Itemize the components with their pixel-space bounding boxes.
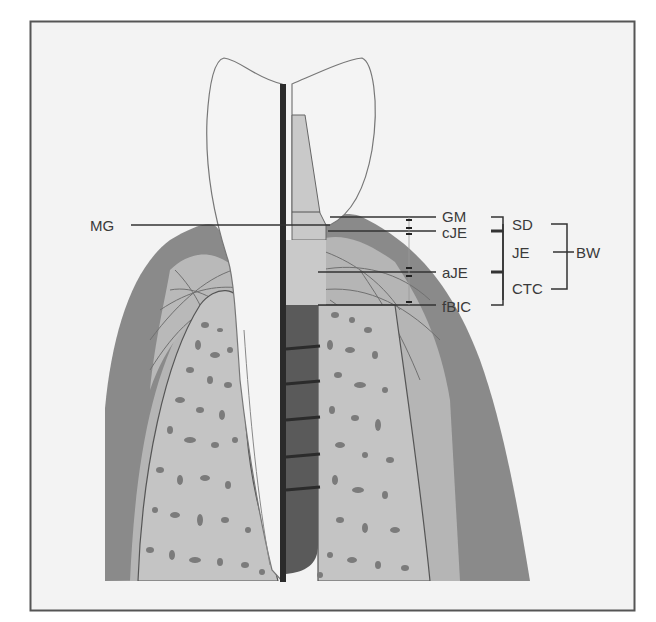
label-bw: BW	[576, 244, 601, 261]
label-aje: aJE	[442, 264, 468, 281]
peri-implant-diagram: MG GM cJE aJE fBIC SD JE CTC BW	[0, 0, 656, 622]
label-cje: cJE	[442, 224, 467, 241]
label-ctc: CTC	[512, 280, 543, 297]
label-je: JE	[512, 244, 530, 261]
center-divider	[280, 84, 286, 582]
label-fbic: fBIC	[442, 298, 471, 315]
label-mg: MG	[90, 217, 114, 234]
label-sd: SD	[512, 216, 533, 233]
label-gm: GM	[442, 208, 466, 225]
